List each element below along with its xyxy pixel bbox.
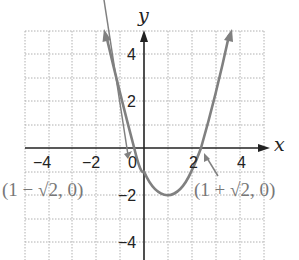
axes: [25, 30, 270, 260]
tick-x-neg2: −2: [82, 154, 100, 171]
tick-x-neg4: −4: [33, 154, 51, 171]
curve-right-arrow-icon: [224, 29, 233, 42]
tick-x-2: 2: [189, 154, 198, 171]
tick-y-neg4: −4: [118, 234, 136, 251]
parabola-graph: y x −4 −2 0 2 4 4 2 −2 −4 (1 − √2, 0) (1…: [0, 0, 299, 260]
tick-y-neg2: −2: [118, 187, 136, 204]
y-axis-label: y: [137, 4, 149, 26]
right-intercept-label: (1 + √2, 0): [194, 179, 275, 201]
tick-x-0: 0: [128, 154, 137, 171]
tick-y-2: 2: [127, 93, 136, 110]
y-axis-arrow-icon: [140, 30, 148, 42]
left-intercept-label: (1 − √2, 0): [2, 179, 83, 201]
tick-x-4: 4: [237, 154, 246, 171]
tick-y-4: 4: [127, 46, 136, 63]
x-axis-label: x: [274, 133, 285, 155]
